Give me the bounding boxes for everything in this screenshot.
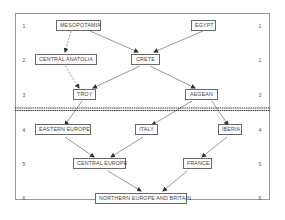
edge-france-northern-europe [163,171,187,191]
edge-italy-central-europe [111,137,143,157]
row-number-left-6: 6 [20,195,28,201]
row-number-left-5: 5 [20,161,28,167]
edge-mesopotamia-crete [90,31,138,52]
node-eastern-europe: EASTERN EUROPE [35,124,91,135]
edge-central-anatolia-troy [65,66,79,88]
node-central-anatolia: CENTRAL ANATOLIA [35,54,97,65]
edge-egypt-crete [154,31,203,52]
row-number-right-5: 5 [256,161,264,167]
node-italy: ITALY [135,124,158,135]
row-number-left-3: 3 [20,92,28,98]
row-number-left-1: 1 [20,23,28,29]
node-iberia: IBERIA [218,124,242,135]
row-number-right-1: 1 [256,23,264,29]
node-aegean: AEGEAN [185,89,218,100]
edge-iberia-france [202,137,227,157]
edge-mesopotamia-central-anatolia [65,31,71,52]
node-troy: TROY [73,89,96,100]
edges-layer [0,0,285,220]
edge-central-europe-northern-europe [108,171,141,191]
edge-crete-aegean [150,66,195,88]
edge-troy-eastern-europe [65,101,82,125]
row-number-left-2: 2 [20,57,28,63]
period-separator [15,108,270,111]
row-number-right-3: 3 [256,92,264,98]
edge-aegean-iberia [212,101,228,125]
row-number-right-6: 6 [256,195,264,201]
edge-aegean-italy [152,101,192,125]
edge-crete-troy [93,66,140,88]
row-number-left-4: 4 [20,127,28,133]
node-france: FRANCE [183,158,212,169]
node-central-europe: CENTRAL EUROPE [73,158,126,169]
node-crete: CRETE [131,54,160,65]
row-number-right-2: 2 [256,57,264,63]
node-egypt: EGYPT [191,20,216,31]
row-number-right-4: 4 [256,127,264,133]
edge-eastern-europe-central-europe [65,137,94,157]
node-northern-europe-and-britain: NORTHERN EUROPE AND BRITAIN [95,193,187,204]
node-mesopotamia: MESOPOTAMIA [56,20,101,31]
